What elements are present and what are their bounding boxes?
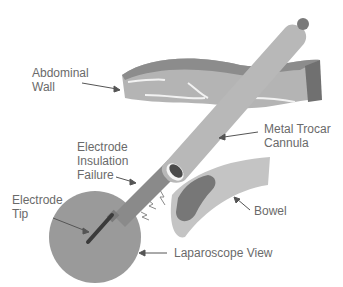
label-metal-trocar-cannula: Metal Trocar Cannula <box>264 122 331 150</box>
bowel-arrow <box>234 197 250 210</box>
label-laparoscope-view: Laparoscope View <box>174 246 273 260</box>
label-abdominal-wall: Abdominal Wall <box>32 66 89 94</box>
label-electrode-tip: Electrode Tip <box>12 193 63 221</box>
label-electrode-insulation-failure: Electrode Insulation Failure <box>77 140 128 182</box>
cannula-cap <box>297 18 309 30</box>
label-bowel: Bowel <box>254 204 287 218</box>
laparoscope-view-arrow <box>139 250 167 256</box>
